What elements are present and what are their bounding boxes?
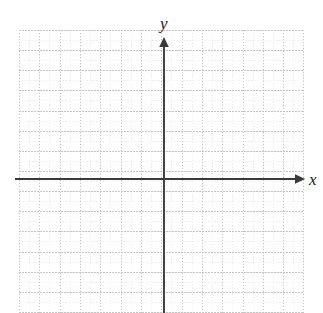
x-axis-label: x [309, 171, 317, 188]
coordinate-plane-figure: y x [0, 0, 323, 313]
axes-group [0, 0, 323, 313]
y-axis-label: y [160, 15, 168, 32]
